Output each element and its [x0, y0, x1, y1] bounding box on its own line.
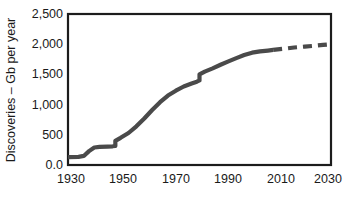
- discoveries-line-chart: Discoveries – Gb per year 0.0 500 1,000 …: [0, 0, 347, 199]
- x-tick-label-1970: 1970: [162, 172, 190, 186]
- y-tick-label-0: 0.0: [46, 158, 63, 172]
- x-tick-label-2010: 2010: [267, 172, 295, 186]
- y-tick-label-1500: 1,500: [32, 67, 63, 81]
- x-tick-label-2030: 2030: [314, 172, 342, 186]
- y-tick-label-500: 500: [42, 128, 63, 142]
- y-tick-label-2500: 2,500: [32, 7, 63, 21]
- y-axis-title: Discoveries – Gb per year: [4, 18, 18, 163]
- x-tick-label-1930: 1930: [57, 172, 85, 186]
- y-tick-label-2000: 2,000: [32, 37, 63, 51]
- x-tick-label-1990: 1990: [214, 172, 242, 186]
- y-tick-label-1000: 1,000: [32, 98, 63, 112]
- plot-area-frame: [68, 14, 331, 165]
- x-tick-label-1950: 1950: [109, 172, 137, 186]
- chart-container: Discoveries – Gb per year 0.0 500 1,000 …: [0, 0, 347, 199]
